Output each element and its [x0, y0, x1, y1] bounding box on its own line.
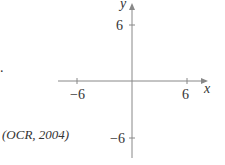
y-tick-label-6: 6 — [116, 18, 123, 33]
y-tick-label-neg6: −6 — [110, 131, 125, 146]
x-tick-label-neg6: −6 — [70, 87, 85, 102]
y-axis-label: y — [118, 0, 127, 11]
y-axis-arrow-icon — [129, 3, 135, 10]
x-axis-label: x — [203, 81, 211, 96]
coordinate-axes: −6 6 x 6 −6 y — [0, 0, 225, 165]
x-tick-label-6: 6 — [182, 87, 189, 102]
